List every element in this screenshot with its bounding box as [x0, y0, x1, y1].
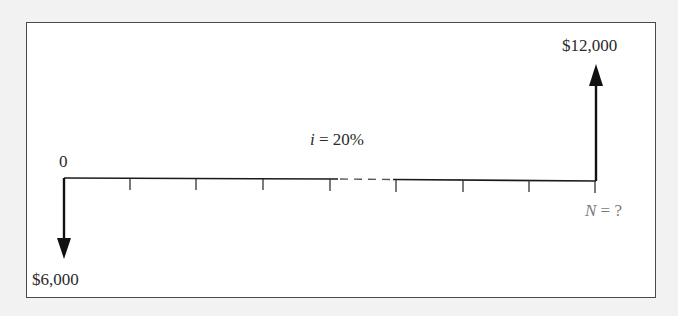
interest-rate-value: 20% [333, 130, 364, 149]
outflow-amount-label: $6,000 [32, 271, 79, 288]
interest-rate-operator: = [315, 130, 333, 149]
cash-flow-diagram: $12,000 $6,000 0 i = 20% N = ? [0, 0, 678, 316]
outflow-arrow-icon [57, 178, 71, 259]
end-period-operator: = [596, 201, 614, 220]
timeline-segment-right [393, 180, 596, 182]
end-period-variable: N [585, 201, 596, 220]
timeline-segment-left [64, 178, 338, 179]
inflow-arrow-icon [589, 64, 603, 181]
interest-rate-label: i = 20% [310, 131, 364, 148]
end-period-label: N = ? [585, 202, 622, 219]
timeline-dashed-gap [340, 179, 392, 180]
inflow-amount-label: $12,000 [562, 37, 617, 54]
end-period-value: ? [614, 201, 622, 220]
period-zero-label: 0 [59, 153, 68, 170]
